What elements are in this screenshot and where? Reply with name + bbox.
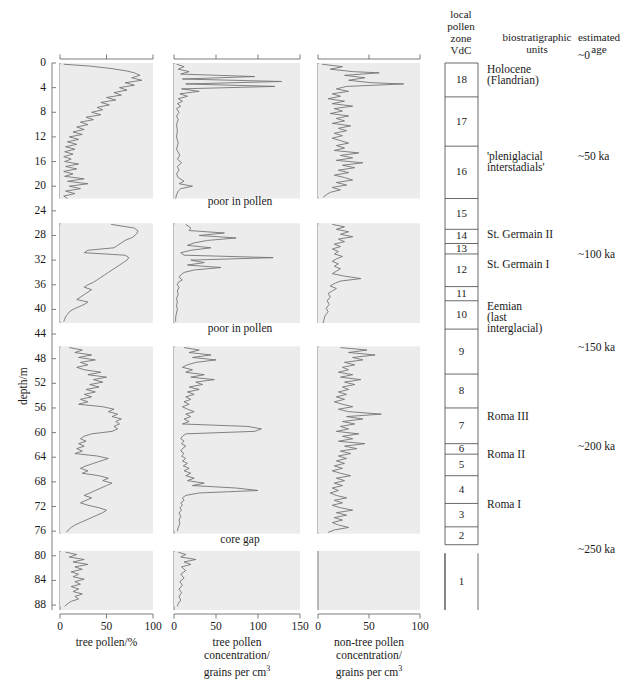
- depth-axis-title: depth/m: [17, 346, 30, 426]
- estimated-age-label: ~200 ka: [578, 440, 615, 452]
- depth-tick-label: 20: [14, 179, 46, 191]
- zone-column-header-line: zone: [438, 32, 484, 44]
- panel-axis-title-line: non-tree pollen: [299, 636, 439, 649]
- plot-canvas: [0, 0, 632, 688]
- biostratigraphic-unit-label: Roma I: [487, 498, 521, 511]
- depth-tick-label: 40: [14, 302, 46, 314]
- panel-axis-title-line: concentration/: [167, 649, 307, 662]
- core-gap: core gap: [150, 533, 330, 546]
- zone-label-9[interactable]: 9: [445, 345, 478, 357]
- zone-label-11[interactable]: 11: [445, 287, 478, 299]
- zone-label-3[interactable]: 3: [445, 508, 478, 520]
- pollen-stratigraphy-figure: 0481216202428323640444852566064687276808…: [0, 0, 632, 688]
- biostratigraphic-unit-label: interstadials': [487, 161, 545, 174]
- x-tick-label: 0: [302, 620, 334, 633]
- zone-label-12[interactable]: 12: [445, 263, 478, 275]
- depth-tick-label: 76: [14, 524, 46, 536]
- zone-label-1[interactable]: 1: [445, 575, 478, 587]
- zone-label-15[interactable]: 15: [445, 207, 478, 219]
- estimated-age-label: ~0: [578, 49, 590, 61]
- x-tick-label: 50: [353, 620, 385, 633]
- panel-axis-title-line: concentration/: [299, 649, 439, 662]
- depth-tick-label: 32: [14, 253, 46, 265]
- panel-axis-title: tree pollen/%: [37, 636, 177, 649]
- x-tick-label: 100: [242, 620, 274, 633]
- estimated-age-label: ~50 ka: [578, 150, 609, 162]
- depth-tick-label: 80: [14, 549, 46, 561]
- zone-label-16[interactable]: 16: [445, 165, 478, 177]
- depth-tick-label: 64: [14, 450, 46, 462]
- estimated-age-label: ~250 ka: [578, 543, 615, 555]
- poor-in-pollen-lower: poor in pollen: [150, 322, 330, 335]
- depth-tick-label: 72: [14, 500, 46, 512]
- depth-tick-label: 44: [14, 327, 46, 339]
- biostratigraphic-unit-label: (Flandrian): [487, 74, 539, 87]
- panel-axis-title-line: grains per cm3: [167, 662, 307, 679]
- x-tick-label: 0: [158, 620, 190, 633]
- biostratigraphic-unit-label: Roma III: [487, 410, 529, 423]
- panel-axis-title: tree pollenconcentration/grains per cm3: [167, 636, 307, 679]
- x-tick-label: 50: [200, 620, 232, 633]
- zone-label-13[interactable]: 13: [445, 242, 478, 254]
- depth-tick-label: 8: [14, 105, 46, 117]
- zone-label-5[interactable]: 5: [445, 458, 478, 470]
- depth-tick-label: 4: [14, 81, 46, 93]
- x-tick-label: 0: [44, 620, 76, 633]
- biostratigraphic-unit-label: St. Germain I: [487, 258, 549, 271]
- zone-label-8[interactable]: 8: [445, 384, 478, 396]
- zone-label-14[interactable]: 14: [445, 229, 478, 241]
- depth-tick-label: 0: [14, 56, 46, 68]
- zone-label-18[interactable]: 18: [445, 73, 478, 85]
- zone-label-7[interactable]: 7: [445, 419, 478, 431]
- zone-label-17[interactable]: 17: [445, 115, 478, 127]
- biostratigraphic-unit-label: St. Germain II: [487, 228, 553, 241]
- x-tick-label: 100: [404, 620, 436, 633]
- panel-band-bg: [318, 551, 420, 610]
- depth-tick-label: 24: [14, 204, 46, 216]
- panel-axis-title-line: tree pollen: [167, 636, 307, 649]
- poor-in-pollen-upper: poor in pollen: [150, 195, 330, 208]
- biostratigraphic-unit-label: Roma II: [487, 448, 525, 461]
- zone-column-header-line: local: [438, 8, 484, 20]
- depth-tick-label: 12: [14, 130, 46, 142]
- depth-tick-label: 36: [14, 278, 46, 290]
- depth-tick-label: 84: [14, 573, 46, 585]
- zone-column-header: localpollenzoneVdC: [438, 8, 484, 56]
- depth-tick-label: 16: [14, 155, 46, 167]
- x-tick-label: 50: [91, 620, 123, 633]
- depth-tick-label: 28: [14, 228, 46, 240]
- zone-column-header-line: pollen: [438, 20, 484, 32]
- zone-column-header-line: VdC: [438, 44, 484, 56]
- depth-tick-label: 60: [14, 426, 46, 438]
- panel-axis-title: non-tree pollenconcentration/grains per …: [299, 636, 439, 679]
- zone-label-4[interactable]: 4: [445, 483, 478, 495]
- zone-label-10[interactable]: 10: [445, 308, 478, 320]
- estimated-age-header-line: estimated: [568, 31, 630, 43]
- zone-label-6[interactable]: 6: [445, 442, 478, 454]
- depth-tick-label: 68: [14, 475, 46, 487]
- depth-tick-label: 88: [14, 598, 46, 610]
- estimated-age-label: ~100 ka: [578, 248, 615, 260]
- biostratigraphic-unit-label: interglacial): [487, 322, 542, 335]
- estimated-age-label: ~150 ka: [578, 341, 615, 353]
- panel-axis-title-line: grains per cm3: [299, 662, 439, 679]
- zone-label-2[interactable]: 2: [445, 529, 478, 541]
- panel-axis-title-line: tree pollen/%: [37, 636, 177, 649]
